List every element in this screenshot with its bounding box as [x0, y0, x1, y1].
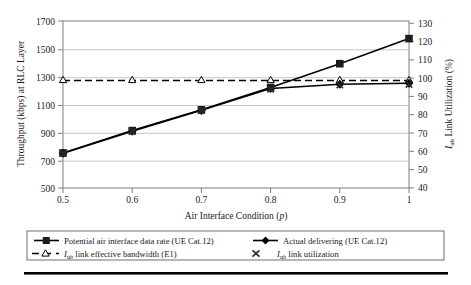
- y-left-tick-900: 900: [41, 129, 56, 139]
- bottom-horizontal-rule: [24, 272, 448, 275]
- marker-square-p0_9: [336, 60, 344, 68]
- y-right-tick-70: 70: [418, 129, 428, 139]
- y-right-tick-50: 50: [418, 165, 428, 175]
- legend-marker-square: [43, 237, 50, 244]
- y-left-tick-1500: 1500: [36, 45, 55, 55]
- y-right-tick-120: 120: [418, 37, 433, 47]
- x-axis-title-post: ): [284, 211, 287, 222]
- legend-label-bandwidth-rest: link effective bandwidth (E1): [73, 249, 177, 259]
- y-right-tick-90: 90: [418, 92, 428, 102]
- y-left-tick-700: 700: [41, 157, 56, 167]
- legend: Potential air interface data rate (UE Ca…: [27, 231, 444, 260]
- y-left-tick-1100: 1100: [36, 101, 55, 111]
- y-axis-right-title-rest: Link Utilization (%): [444, 59, 455, 139]
- y-left-tick-1300: 1300: [36, 73, 55, 83]
- legend-label-potential: Potential air interface data rate (UE Ca…: [64, 236, 214, 246]
- legend-label-utilization-rest: link utilization: [286, 249, 339, 259]
- legend-label-utilization: Iub link utilization: [276, 249, 339, 260]
- y-left-tick-1700: 1700: [36, 17, 55, 27]
- x-tick-1: 1: [407, 195, 412, 205]
- y-right-tick-40: 40: [418, 183, 428, 193]
- x-tick-0_8: 0.8: [265, 195, 277, 205]
- legend-label-actual: Actual delivering (UE Cat.12): [283, 236, 387, 246]
- legend-label-bandwidth: Iub link effective bandwidth (E1): [63, 249, 177, 260]
- y-right-tick-80: 80: [418, 110, 428, 120]
- marker-square-p1_0: [405, 35, 413, 43]
- x-tick-0_9: 0.9: [334, 195, 346, 205]
- x-tick-0_6: 0.6: [126, 195, 138, 205]
- x-axis-title-pre: Air Interface Condition (: [185, 211, 280, 222]
- x-tick-0_5: 0.5: [57, 195, 69, 205]
- figure-container: 1700 1500 1300 1100 900 700 500 130: [0, 0, 471, 285]
- y-right-tick-110: 110: [418, 55, 432, 65]
- plot-area-border: [63, 21, 409, 188]
- y-axis-right-title: Iub Link Utilization (%): [444, 59, 455, 150]
- x-axis-title: Air Interface Condition (p): [185, 211, 288, 222]
- y-right-tick-100: 100: [418, 74, 433, 84]
- y-axis-left-title: Throughput (kbps) at RLC Layer: [16, 40, 27, 167]
- y-right-tick-130: 130: [418, 19, 433, 29]
- x-tick-0_7: 0.7: [195, 195, 207, 205]
- y-right-tick-60: 60: [418, 147, 428, 157]
- y-left-tick-500: 500: [41, 184, 56, 194]
- chart-svg: 1700 1500 1300 1100 900 700 500 130: [0, 0, 471, 285]
- plot-frame: [63, 21, 409, 188]
